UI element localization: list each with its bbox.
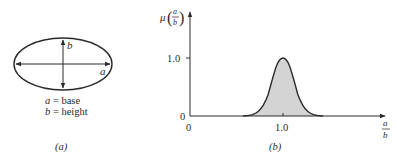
y-tick-label-0: 0 — [180, 111, 185, 122]
y-tick-label-1: 1.0 — [167, 53, 180, 64]
x-tick-label-1: 1.0 — [275, 122, 288, 133]
y-axis-label: μ ( a b ) — [159, 7, 184, 27]
membership-curve-fill — [243, 58, 323, 116]
svg-text:b: b — [173, 18, 177, 27]
svg-text:b: b — [383, 130, 388, 140]
label-b: b — [67, 39, 73, 51]
panel-a: b a a = base b = height (a) — [14, 38, 112, 153]
legend-base: a = base — [45, 95, 80, 106]
x-tick-label-0: 0 — [186, 122, 191, 133]
svg-text:a: a — [383, 118, 388, 128]
label-a: a — [100, 65, 106, 77]
svg-text:(: ( — [167, 9, 172, 27]
svg-text:μ: μ — [159, 11, 166, 23]
figure-canvas: b a a = base b = height (a) 1.0 0 0 1.0 … — [0, 0, 397, 160]
x-axis-label: a b — [382, 118, 390, 140]
caption-b: (b) — [269, 141, 282, 153]
svg-text:a: a — [173, 7, 177, 16]
panel-b: 1.0 0 0 1.0 μ ( a b ) a b (b) — [159, 7, 390, 153]
legend-height: b = height — [45, 106, 88, 117]
svg-text:): ) — [179, 9, 184, 27]
caption-a: (a) — [55, 141, 68, 153]
